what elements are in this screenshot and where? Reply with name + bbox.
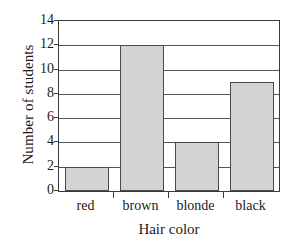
gridline [59, 70, 279, 71]
x-axis-category-label: black [235, 198, 265, 214]
y-axis-tick-label: 14 [32, 13, 54, 27]
x-axis-category-label: blonde [176, 198, 214, 214]
y-axis-tick-label: 2 [32, 159, 54, 173]
y-axis-tick-label: 12 [32, 37, 54, 51]
y-axis-tick-label: 10 [32, 62, 54, 76]
y-axis-tick-label: 6 [32, 110, 54, 124]
y-axis-tick-label: 0 [32, 183, 54, 197]
x-axis-category-labels: redbrownblondeblack [58, 198, 280, 218]
gridline [59, 45, 279, 46]
bar [175, 142, 219, 191]
bar-chart: Number of students 02468101214 redbrownb… [0, 0, 307, 246]
x-axis-category-label: brown [123, 198, 159, 214]
y-axis-tick-label: 4 [32, 134, 54, 148]
x-axis-title: Hair color [58, 221, 280, 238]
bar [120, 45, 164, 191]
bar [65, 167, 109, 191]
y-axis-tick-labels: 02468101214 [28, 20, 54, 192]
y-axis-tick-label: 8 [32, 86, 54, 100]
x-axis-category-label: red [77, 198, 95, 214]
bar [230, 82, 274, 191]
plot-area [58, 20, 280, 192]
